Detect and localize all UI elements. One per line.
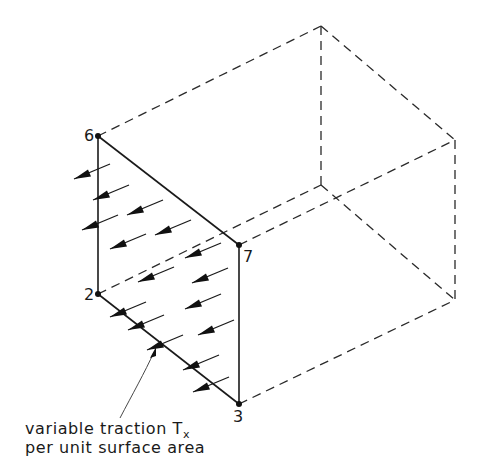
edge-backtop-backright bbox=[321, 26, 455, 140]
traction-arrow-icon bbox=[82, 215, 118, 230]
node-label-2: 2 bbox=[84, 285, 94, 304]
node-label-7: 7 bbox=[243, 247, 253, 266]
node-label-3: 3 bbox=[233, 407, 243, 426]
traction-arrow-icon bbox=[185, 243, 221, 258]
edge-6-backtop bbox=[98, 26, 321, 136]
traction-arrow-icon bbox=[193, 377, 229, 392]
edge-backinner-backrightbottom bbox=[321, 185, 455, 300]
edge-2-3 bbox=[98, 294, 239, 404]
traction-arrow-icon bbox=[185, 294, 221, 309]
traction-arrow-icon bbox=[110, 234, 146, 249]
node-6 bbox=[95, 133, 101, 139]
traction-cube-diagram: 6 7 2 3 variable traction Tx per unit su… bbox=[0, 0, 484, 474]
node-2 bbox=[95, 291, 101, 297]
traction-arrow-icon bbox=[183, 355, 219, 370]
loaded-face bbox=[98, 136, 239, 404]
traction-arrow-icon bbox=[192, 268, 228, 283]
traction-arrow-icon bbox=[110, 302, 146, 317]
traction-arrow-icon bbox=[138, 267, 174, 282]
traction-arrow-icon bbox=[198, 320, 234, 335]
node-label-6: 6 bbox=[84, 126, 94, 145]
node-7 bbox=[236, 242, 242, 248]
caption-line-1-text: variable traction T bbox=[25, 419, 183, 438]
corner-nodes bbox=[95, 133, 242, 407]
edge-3-backrightbottom bbox=[239, 300, 455, 404]
traction-arrow-icon bbox=[74, 164, 110, 179]
traction-arrow-icon bbox=[155, 220, 191, 235]
caption-line-2: per unit surface area bbox=[25, 438, 205, 457]
traction-arrow-icon bbox=[127, 200, 163, 215]
leader-line bbox=[120, 352, 154, 418]
edge-7-backright bbox=[239, 140, 455, 245]
